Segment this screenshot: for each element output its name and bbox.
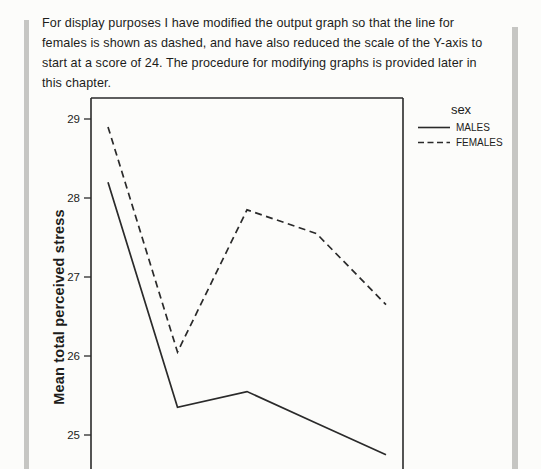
y-tick-label: 25 xyxy=(67,429,80,441)
legend-females-label: FEMALES xyxy=(456,137,503,148)
body-text-paragraph: For display purposes I have modified the… xyxy=(42,13,512,93)
paragraph-line: For display purposes I have modified the… xyxy=(42,13,512,33)
paragraph-line: this chapter. xyxy=(42,73,512,93)
legend-title: sex xyxy=(451,102,472,117)
book-page: { "page": { "paragraph_lines": [ "For di… xyxy=(0,0,541,469)
y-tick-label: 26 xyxy=(67,350,80,362)
legend-males-label: MALES xyxy=(456,122,490,133)
males-line xyxy=(108,182,386,455)
paragraph-line: start at a score of 24. The procedure fo… xyxy=(42,53,512,73)
y-tick-label: 29 xyxy=(67,113,80,125)
line-chart: 2928272625Mean total perceived stresssex… xyxy=(0,95,541,469)
y-tick-label: 28 xyxy=(67,192,80,204)
y-axis-title: Mean total perceived stress xyxy=(51,209,67,405)
y-tick-label: 27 xyxy=(67,271,80,283)
paragraph-line: females is shown as dashed, and have als… xyxy=(42,33,512,53)
